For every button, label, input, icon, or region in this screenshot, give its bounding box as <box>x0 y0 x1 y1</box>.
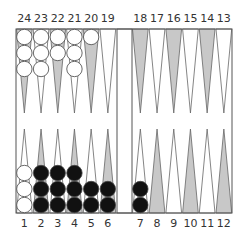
black-checker[interactable] <box>50 165 65 180</box>
point-label-12: 12 <box>217 217 231 230</box>
point-label-3: 3 <box>54 217 61 230</box>
black-checker[interactable] <box>33 197 48 212</box>
point-label-18: 18 <box>133 12 147 25</box>
white-checker[interactable] <box>17 165 32 180</box>
white-checker[interactable] <box>17 45 32 60</box>
black-checker[interactable] <box>67 181 82 196</box>
point-10[interactable] <box>183 129 199 213</box>
point-label-11: 11 <box>200 217 214 230</box>
black-checker[interactable] <box>100 197 115 212</box>
point-label-2: 2 <box>38 217 45 230</box>
point-label-1: 1 <box>21 217 28 230</box>
black-checker[interactable] <box>133 181 148 196</box>
backgammon-board: 242322212019181716151413123456789101112 <box>0 0 246 238</box>
point-18[interactable] <box>133 29 149 113</box>
black-checker[interactable] <box>33 181 48 196</box>
point-label-17: 17 <box>150 12 164 25</box>
white-checker[interactable] <box>33 29 48 44</box>
point-15[interactable] <box>183 29 199 113</box>
white-checker[interactable] <box>67 61 82 76</box>
point-label-6: 6 <box>104 217 111 230</box>
black-checker[interactable] <box>67 197 82 212</box>
white-checker[interactable] <box>33 45 48 60</box>
point-label-9: 9 <box>170 217 177 230</box>
black-checker[interactable] <box>83 181 98 196</box>
point-12[interactable] <box>216 129 232 213</box>
point-13[interactable] <box>216 29 232 113</box>
white-checker[interactable] <box>17 29 32 44</box>
black-checker[interactable] <box>67 165 82 180</box>
point-9[interactable] <box>166 129 182 213</box>
point-8[interactable] <box>149 129 165 213</box>
point-label-13: 13 <box>217 12 231 25</box>
white-checker[interactable] <box>50 45 65 60</box>
black-checker[interactable] <box>50 197 65 212</box>
white-checker[interactable] <box>33 61 48 76</box>
black-checker[interactable] <box>100 181 115 196</box>
black-checker[interactable] <box>83 197 98 212</box>
point-label-4: 4 <box>71 217 78 230</box>
white-checker[interactable] <box>67 45 82 60</box>
white-checker[interactable] <box>17 181 32 196</box>
point-label-22: 22 <box>51 12 65 25</box>
point-16[interactable] <box>166 29 182 113</box>
point-label-20: 20 <box>84 12 98 25</box>
point-label-10: 10 <box>183 217 197 230</box>
point-label-23: 23 <box>34 12 48 25</box>
point-17[interactable] <box>149 29 165 113</box>
point-11[interactable] <box>199 129 215 213</box>
point-19[interactable] <box>100 29 116 113</box>
white-checker[interactable] <box>17 197 32 212</box>
point-label-5: 5 <box>88 217 95 230</box>
white-checker[interactable] <box>83 29 98 44</box>
black-checker[interactable] <box>50 181 65 196</box>
white-checker[interactable] <box>50 29 65 44</box>
point-label-15: 15 <box>183 12 197 25</box>
black-checker[interactable] <box>33 165 48 180</box>
point-label-19: 19 <box>101 12 115 25</box>
point-label-7: 7 <box>137 217 144 230</box>
point-label-14: 14 <box>200 12 214 25</box>
point-label-21: 21 <box>67 12 81 25</box>
bar[interactable] <box>117 29 132 213</box>
point-14[interactable] <box>199 29 215 113</box>
white-checker[interactable] <box>67 29 82 44</box>
point-label-8: 8 <box>154 217 161 230</box>
white-checker[interactable] <box>17 61 32 76</box>
point-label-24: 24 <box>17 12 31 25</box>
black-checker[interactable] <box>133 197 148 212</box>
point-label-16: 16 <box>167 12 181 25</box>
